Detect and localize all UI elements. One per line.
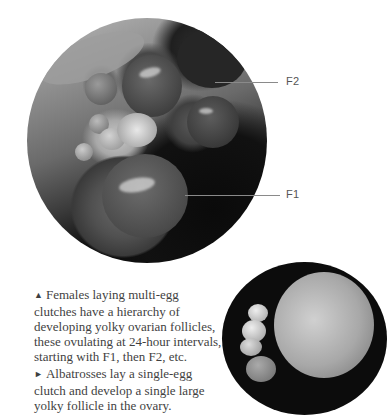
white-tissue <box>117 113 157 147</box>
follicle-f2 <box>122 55 182 117</box>
f2-leader-line <box>215 82 278 83</box>
caption-text: Albatrosses lay a single-egg clutch and … <box>34 366 205 413</box>
caption-text: Females laying multi-egg clutches have a… <box>34 287 221 364</box>
small-follicle <box>246 356 276 382</box>
small-follicle <box>240 338 262 356</box>
follicle-f3 <box>187 96 239 148</box>
highlight <box>199 108 213 114</box>
small-follicle <box>85 73 117 105</box>
dark-tissue <box>177 28 247 88</box>
small-follicle <box>75 143 93 161</box>
label-f2: F2 <box>286 75 299 87</box>
f1-leader-line <box>185 195 280 196</box>
large-yolky-follicle <box>274 272 374 378</box>
caption-albatross: ►Albatrosses lay a single-egg clutch and… <box>34 366 224 413</box>
ovary-follicle-hierarchy-photo <box>27 18 267 263</box>
triangle-right-icon: ► <box>34 369 43 379</box>
albatross-follicle-photo <box>222 262 387 415</box>
triangle-up-icon: ▲ <box>34 290 43 300</box>
label-f1: F1 <box>286 188 299 200</box>
follicle-f1 <box>102 154 188 238</box>
caption-multi-egg: ▲Females laying multi-egg clutches have … <box>34 287 224 364</box>
